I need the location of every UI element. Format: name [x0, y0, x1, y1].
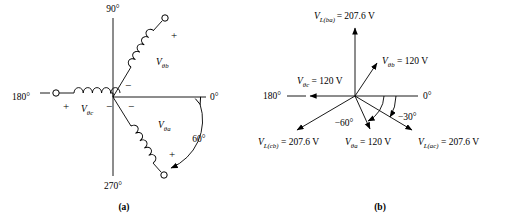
figure-svg: 90° 270° 0° 180° + − Vθc — [0, 0, 506, 219]
panel-b-label-180: 180° — [263, 91, 281, 101]
phasor-V-L-ba-label: VL(ba) = 207.6 V — [314, 11, 375, 24]
phasor-V-theta-b-label: Vθb = 120 V — [382, 56, 428, 68]
phase-b-plus-sign: + — [171, 29, 177, 41]
phasor-V-L-cb-label: VL(cb) = 207.6 V — [258, 137, 319, 150]
phasor-V-theta-b-value: 120 V — [405, 56, 428, 66]
phasor-V-theta-c: Vθc = 120 V — [297, 76, 355, 96]
panel-b-arc-minus30-path — [390, 96, 396, 117]
panel-b-caption: (b) — [374, 202, 386, 213]
panel-b-label-0: 0° — [423, 91, 432, 101]
phase-b-lead-outer — [153, 21, 162, 31]
phasor-V-theta-b: Vθb = 120 V — [355, 56, 428, 96]
phase-c-terminal — [53, 90, 59, 96]
phase-c-plus-sign: + — [63, 100, 69, 112]
phasor-V-theta-c-value: 120 V — [319, 76, 342, 86]
phasor-V-L-ac-subscript: L(ac) — [423, 142, 439, 150]
phase-a-label-subscript: θa — [164, 125, 171, 132]
phase-b-coil — [127, 27, 154, 67]
phase-a-label: Vθa — [158, 120, 171, 132]
phase-a-plus-sign: + — [169, 148, 175, 160]
phase-b-minus-sign: − — [125, 79, 131, 91]
panel-a-angle-arc-60: 60° — [171, 104, 206, 168]
phasor-V-theta-b-arrow — [355, 63, 377, 96]
phasor-V-L-ac-value: 207.6 V — [449, 137, 480, 147]
phase-b-label: Vθb — [156, 57, 169, 69]
panel-a-caption: (a) — [118, 202, 129, 213]
phasor-V-L-cb-subscript: L(cb) — [263, 142, 279, 150]
panel-b-arc-minus30-label: −30° — [398, 112, 417, 122]
panel-a-phase-a-winding: − + Vθa — [113, 97, 175, 178]
panel-b-angle-arc-minus30: −30° — [390, 96, 417, 122]
phase-a-lead-outer — [153, 163, 161, 172]
phase-a-coil — [131, 123, 158, 163]
phase-a-terminal — [161, 172, 167, 178]
panel-a-label-180: 180° — [12, 92, 30, 102]
figure-container: 90° 270° 0° 180° + − Vθc — [0, 0, 506, 219]
panel-b-angle-arc-minus60: −60° — [335, 96, 384, 128]
panel-b: 0° 180° VL(ba) = 207.6 V Vθb = 120 V Vθc… — [258, 11, 479, 213]
phase-c-minus-sign: − — [106, 100, 112, 112]
phase-b-label-subscript: θb — [162, 62, 169, 69]
phasor-V-theta-c-label: Vθc = 120 V — [297, 76, 343, 88]
phasor-V-L-cb-value: 207.6 V — [289, 137, 320, 147]
phasor-V-L-ba-subscript: L(ba) — [319, 16, 336, 24]
panel-a-label-0: 0° — [210, 92, 219, 102]
phasor-V-theta-a-label: Vθa = 120 V — [345, 137, 391, 149]
panel-a-label-90: 90° — [106, 4, 120, 14]
panel-a-label-270: 270° — [104, 181, 122, 191]
phasor-V-theta-a-value: 120 V — [368, 137, 391, 147]
phase-c-label-subscript: θc — [87, 109, 93, 116]
phase-c-label: Vθc — [81, 104, 93, 116]
panel-a-phase-b-winding: + − Vθb — [113, 15, 177, 97]
phase-b-terminal — [162, 15, 168, 21]
phasor-V-L-ba-value: 207.6 V — [344, 11, 375, 21]
phase-a-minus-sign: − — [128, 100, 134, 112]
panel-a-arc-label: 60° — [192, 134, 206, 144]
panel-b-arc-minus60-label: −60° — [335, 118, 354, 128]
phasor-V-L-ac-label: VL(ac) = 207.6 V — [418, 137, 479, 150]
panel-a: 90° 270° 0° 180° + − Vθc — [12, 4, 219, 213]
panel-a-phase-c-winding: + − Vθc — [40, 88, 120, 116]
